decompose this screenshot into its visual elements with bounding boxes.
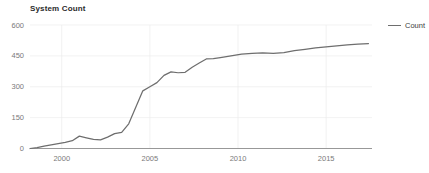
y-axis-tick-label: 0 <box>0 144 24 153</box>
x-axis-tick-label: 2000 <box>42 154 82 163</box>
chart-container: System Count Count 015030045060020002005… <box>0 0 429 173</box>
y-axis-tick-label: 600 <box>0 21 24 30</box>
horizontal-gridlines <box>30 25 372 118</box>
x-axis-tick-label: 2010 <box>218 154 258 163</box>
legend-line-icon <box>388 25 401 26</box>
series-line-count <box>30 44 368 149</box>
x-axis-tick-label: 2005 <box>130 154 170 163</box>
y-axis-tick-label: 300 <box>0 82 24 91</box>
y-axis-tick-label: 150 <box>0 113 24 122</box>
y-axis-tick-label: 450 <box>0 51 24 60</box>
chart-plot-area <box>0 0 429 173</box>
x-axis-tick-label: 2015 <box>306 154 346 163</box>
legend-label-count: Count <box>405 21 425 30</box>
chart-legend: Count <box>388 21 425 30</box>
